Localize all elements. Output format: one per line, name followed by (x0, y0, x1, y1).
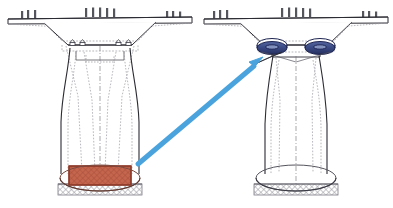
pier-column (265, 56, 327, 186)
foundation-footing (58, 184, 142, 195)
isolation-bearing-right (305, 39, 335, 55)
isolation-bearing-left (257, 39, 287, 55)
fixed-base-block (69, 166, 131, 185)
right-pier-group (204, 8, 388, 196)
retrofit-arrow (138, 57, 263, 164)
diagram-canvas (0, 0, 393, 208)
hidden-flare-lines (276, 58, 316, 172)
foundation-footing (254, 184, 338, 195)
railing-posts-left (21, 10, 36, 19)
railing-posts-center (85, 8, 115, 18)
railing-posts-left (213, 10, 228, 19)
left-pier-group (8, 8, 192, 196)
pier-retrofit-diagram: Bridge pier seismic retrofit comparison … (0, 0, 393, 208)
railing-posts-center (281, 8, 311, 18)
